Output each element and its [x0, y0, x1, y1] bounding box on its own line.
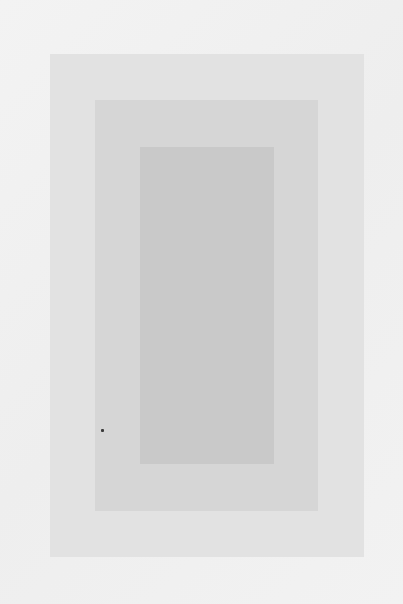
inner-rectangle [140, 147, 274, 464]
dust-speck [101, 429, 104, 432]
artwork-canvas: Three nested grey rectangles on a light … [0, 0, 403, 604]
artwork-description: Three nested grey rectangles on a light … [0, 0, 1, 1]
